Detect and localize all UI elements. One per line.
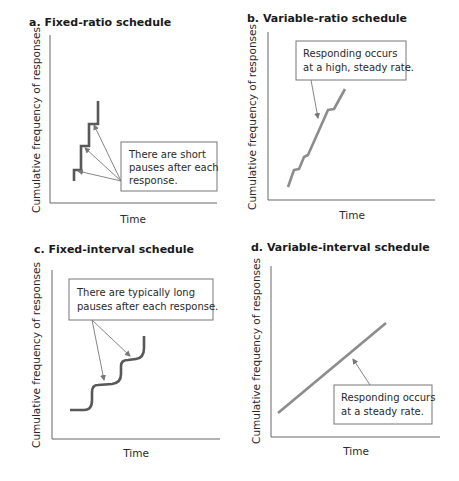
- panel-b-variable-ratio: b. Variable-ratio schedule Cumulative fr…: [246, 12, 435, 221]
- panel-a-fixed-ratio-curve: [74, 101, 98, 181]
- panel-a-y-axis-label: Cumulative frequency of responses: [30, 27, 42, 213]
- panel-a-title: a. Fixed-ratio schedule: [29, 16, 171, 29]
- panel-c-fixed-interval-curve: [70, 336, 144, 410]
- panel-c-fixed-interval: c. Fixed-interval schedule Cumulative fr…: [30, 243, 220, 459]
- panel-b-annotation-box: Responding occurs at a high, steady rate…: [296, 41, 414, 80]
- panel-a-x-axis-label: Time: [119, 213, 146, 225]
- panel-c-pause-arrows: [92, 320, 130, 380]
- panel-d-note-line-1: Responding occurs: [341, 392, 435, 403]
- figure: a. Fixed-ratio schedule Cumulative frequ…: [0, 0, 459, 481]
- panel-a-note-line-2: pauses after each: [129, 162, 219, 173]
- panel-d-title: d. Variable-interval schedule: [251, 241, 430, 254]
- panel-d-y-axis-label: Cumulative frequency of responses: [250, 258, 262, 444]
- panel-a-note-line-1: There are short: [128, 149, 206, 160]
- panel-d-annotation-box: Responding occurs at a steady rate.: [334, 385, 435, 424]
- panel-b-annotation-arrow: [311, 80, 318, 118]
- panel-a-annotation-box: There are short pauses after each respon…: [121, 142, 219, 191]
- panel-c-x-axis-label: Time: [122, 447, 149, 459]
- panel-c-note-line-1: There are typically long: [76, 287, 195, 298]
- panel-b-variable-ratio-curve: [288, 89, 345, 187]
- panel-b-title: b. Variable-ratio schedule: [247, 12, 407, 25]
- panel-a-fixed-ratio: a. Fixed-ratio schedule Cumulative frequ…: [29, 16, 219, 225]
- panel-b-x-axis-label: Time: [338, 209, 365, 221]
- panel-c-annotation-box: There are typically long pauses after ea…: [69, 279, 218, 320]
- panel-b-note-line-1: Responding occurs: [303, 48, 397, 59]
- panel-d-variable-interval: d. Variable-interval schedule Cumulative…: [250, 241, 440, 457]
- panel-c-y-axis-label: Cumulative frequency of responses: [30, 262, 42, 448]
- panel-b-note-line-2: at a high, steady rate.: [303, 62, 414, 73]
- panel-c-note-line-2: pauses after each response.: [77, 301, 218, 312]
- panel-d-note-line-2: at a steady rate.: [341, 406, 424, 417]
- panel-c-title: c. Fixed-interval schedule: [34, 243, 194, 256]
- panel-d-annotation-arrow: [353, 359, 370, 385]
- panel-a-pause-arrows: [78, 125, 121, 181]
- panel-d-x-axis-label: Time: [342, 445, 369, 457]
- panel-a-note-line-3: response.: [129, 175, 178, 186]
- panel-b-y-axis-label: Cumulative frequency of responses: [246, 24, 258, 210]
